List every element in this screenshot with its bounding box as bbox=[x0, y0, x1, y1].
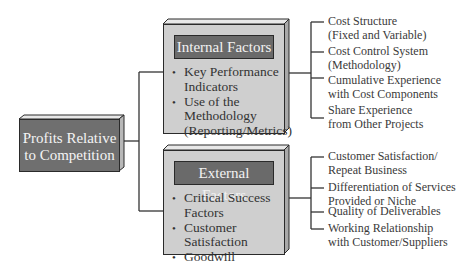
leaf-text: with Cost Components bbox=[328, 88, 441, 102]
leaf-text: Cost Control System bbox=[328, 45, 428, 59]
root-node-label: Profits Relative to Competition bbox=[20, 130, 119, 164]
leaf-text: (Methodology) bbox=[328, 59, 428, 73]
external-leaf-quality: Quality of Deliverables bbox=[328, 205, 441, 219]
bullet-text: Customer bbox=[184, 221, 280, 236]
leaf-text: from Other Projects bbox=[328, 118, 423, 132]
external-factors-title: External Factors bbox=[174, 161, 274, 185]
bullet-text: (Reporting/Metrics) bbox=[184, 124, 280, 139]
leaf-text: Repeat Business bbox=[328, 164, 438, 178]
bullet-text: Factors bbox=[184, 206, 280, 221]
leaf-text: (Fixed and Variable) bbox=[328, 29, 426, 43]
leaf-text: with Customer/Suppliers bbox=[328, 236, 448, 250]
external-leaf-working-relationship: Working Relationship with Customer/Suppl… bbox=[328, 222, 448, 249]
leaf-text: Cumulative Experience bbox=[328, 74, 441, 88]
internal-factors-title: Internal Factors bbox=[174, 35, 274, 59]
internal-leaf-cost-control: Cost Control System (Methodology) bbox=[328, 45, 428, 72]
root-label-line1: Profits Relative bbox=[20, 130, 119, 147]
bullet-text: Indicators bbox=[184, 80, 280, 95]
internal-factors-node: Internal Factors Key Performance Indicat… bbox=[163, 24, 285, 134]
leaf-text: Quality of Deliverables bbox=[328, 205, 441, 219]
root-node-face: Profits Relative to Competition bbox=[19, 119, 120, 172]
internal-leaf-cost-structure: Cost Structure (Fixed and Variable) bbox=[328, 15, 426, 42]
external-factors-bullets: Critical Success Factors Customer Satisf… bbox=[170, 191, 280, 265]
external-factors-face: External Factors Critical Success Factor… bbox=[163, 150, 285, 255]
leaf-text: Working Relationship bbox=[328, 222, 448, 236]
external-leaf-customer-satisfaction: Customer Satisfaction/ Repeat Business bbox=[328, 150, 438, 177]
bullet-item: Customer Satisfaction bbox=[170, 221, 280, 251]
bullet-text: Goodwill bbox=[184, 250, 280, 265]
root-node: Profits Relative to Competition bbox=[19, 119, 120, 172]
leaf-text: Cost Structure bbox=[328, 15, 426, 29]
leaf-text: Share Experience bbox=[328, 104, 423, 118]
internal-factors-bullets: Key Performance Indicators Use of the Me… bbox=[170, 65, 280, 139]
bullet-text: Key Performance bbox=[184, 65, 280, 80]
external-factors-node: External Factors Critical Success Factor… bbox=[163, 150, 285, 255]
bullet-text: Use of the bbox=[184, 95, 280, 110]
bullet-item: Use of the Methodology (Reporting/Metric… bbox=[170, 95, 280, 139]
bullet-item: Goodwill bbox=[170, 250, 280, 265]
internal-leaf-share-experience: Share Experience from Other Projects bbox=[328, 104, 423, 131]
internal-factors-face: Internal Factors Key Performance Indicat… bbox=[163, 24, 285, 134]
bullet-item: Key Performance Indicators bbox=[170, 65, 280, 95]
root-label-line2: to Competition bbox=[20, 147, 119, 164]
bullet-text: Methodology bbox=[184, 109, 280, 124]
bullet-item: Critical Success Factors bbox=[170, 191, 280, 221]
leaf-text: Differentiation of Services bbox=[328, 181, 456, 195]
bullet-text: Satisfaction bbox=[184, 235, 280, 250]
bullet-text: Critical Success bbox=[184, 191, 280, 206]
leaf-text: Customer Satisfaction/ bbox=[328, 150, 438, 164]
internal-leaf-cumulative-experience: Cumulative Experience with Cost Componen… bbox=[328, 74, 441, 101]
